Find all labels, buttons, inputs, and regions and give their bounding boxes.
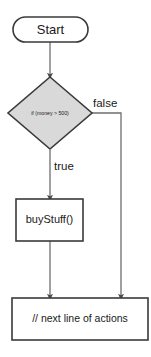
edge-label-true: true xyxy=(54,160,74,172)
node-start[interactable]: Start xyxy=(13,17,88,42)
process-label: buyStuff() xyxy=(26,213,74,225)
node-next-line[interactable]: // next line of actions xyxy=(12,298,148,340)
decision-label: if (money > 500) xyxy=(31,110,69,116)
next-line-label: // next line of actions xyxy=(32,312,128,324)
connector-decision-false-to-next xyxy=(92,113,121,297)
start-label: Start xyxy=(37,22,65,37)
node-decision[interactable]: if (money > 500) xyxy=(8,77,92,149)
flowchart-canvas: Start if (money > 500) false true buyStu… xyxy=(0,0,151,357)
edge-label-false: false xyxy=(93,97,117,109)
node-process[interactable]: buyStuff() xyxy=(16,199,83,241)
flowchart-diagram: Start if (money > 500) false true buyStu… xyxy=(0,0,151,357)
